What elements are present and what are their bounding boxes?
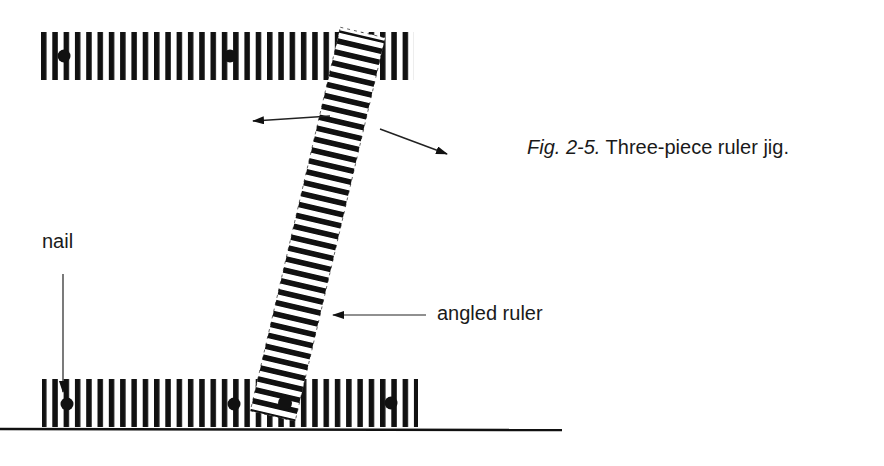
nail-icon (61, 398, 74, 411)
nail-icon (224, 50, 237, 63)
angled-ruler-label: angled ruler (437, 302, 543, 325)
swing-arrow-right (380, 129, 447, 154)
figure-caption: Fig. 2-5. Three-piece ruler jig. (527, 136, 789, 159)
bottom-ruler (42, 379, 418, 427)
nail-icon (278, 396, 292, 410)
figure-number: Fig. 2-5. (527, 136, 600, 158)
nail-icon (385, 397, 398, 410)
ruler-jig-diagram: nail angled ruler Fig. 2-5. Three-piece … (0, 0, 884, 466)
nail-icon (58, 50, 71, 63)
figure-title: Three-piece ruler jig. (606, 136, 789, 158)
nail-icon (228, 398, 241, 411)
baseline (0, 429, 562, 430)
nail-label: nail (42, 230, 73, 253)
angled-ruler (250, 27, 385, 421)
